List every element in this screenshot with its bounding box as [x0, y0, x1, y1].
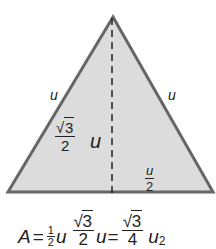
formula-sqrt3-over-4: √3 4: [122, 213, 143, 248]
formula-equals-2: =: [108, 226, 119, 248]
formula-var-2: u: [96, 226, 107, 248]
left-side-label: u: [50, 88, 58, 102]
formula-equals-1: =: [33, 226, 44, 248]
half-base-label: u 2: [145, 164, 154, 193]
formula-exponent: 2: [159, 234, 166, 248]
right-side-label: u: [168, 88, 176, 102]
formula-lhs: A: [18, 226, 31, 248]
formula-var-3: u: [148, 226, 159, 248]
height-variable-label: u: [90, 131, 101, 151]
area-formula: A = 1 2 u √3 2 u = √3 4 u2: [18, 213, 165, 248]
sqrt-symbol: √3: [56, 120, 74, 135]
height-fraction-label: √3 2: [55, 120, 75, 153]
formula-var-1: u: [56, 226, 67, 248]
triangle-shape: [8, 17, 213, 192]
formula-sqrt3-over-2: √3 2: [73, 213, 94, 248]
formula-half: 1 2: [47, 225, 55, 248]
